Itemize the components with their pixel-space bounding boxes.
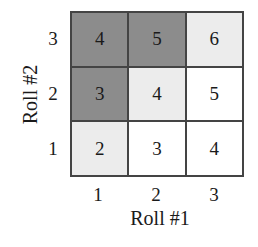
y-axis-label: Roll #2 <box>19 45 42 145</box>
x-tick-1: 1 <box>88 184 108 206</box>
sum-grid: 4 5 6 3 4 5 2 3 4 <box>70 11 244 177</box>
x-axis-label: Roll #1 <box>110 207 210 230</box>
cell-r3-c2: 5 <box>128 12 185 67</box>
x-tick-2: 2 <box>146 184 166 206</box>
cell-r2-c1: 3 <box>71 67 128 122</box>
x-tick-3: 3 <box>204 184 224 206</box>
cell-r3-c1: 4 <box>71 12 128 67</box>
cell-r2-c2: 4 <box>128 67 185 122</box>
y-tick-3: 3 <box>45 28 61 50</box>
cell-r3-c3: 6 <box>186 12 243 67</box>
cell-r1-c3: 4 <box>186 121 243 176</box>
y-tick-2: 2 <box>45 83 61 105</box>
y-tick-1: 1 <box>45 138 61 160</box>
cell-r2-c3: 5 <box>186 67 243 122</box>
cell-r1-c2: 3 <box>128 121 185 176</box>
cell-r1-c1: 2 <box>71 121 128 176</box>
